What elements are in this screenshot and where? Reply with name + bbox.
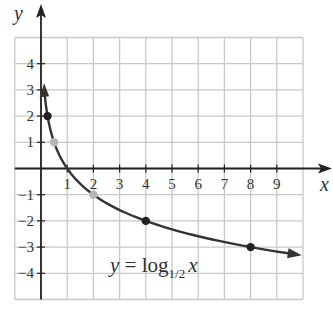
y-tick-label: −4: [18, 265, 34, 281]
x-tick-label: 8: [247, 176, 255, 192]
axes: [15, 4, 332, 300]
data-point: [43, 112, 51, 120]
x-tick-label: 7: [221, 176, 229, 192]
y-tick-label: 2: [27, 108, 35, 124]
y-tick-label: 1: [27, 134, 35, 150]
x-tick-label: 1: [63, 176, 71, 192]
x-tick-label: 4: [142, 176, 150, 192]
x-tick-label: 5: [168, 176, 176, 192]
data-point: [142, 217, 150, 225]
y-tick-label: −1: [18, 187, 34, 203]
y-tick-label: −2: [18, 213, 34, 229]
y-tick-label: −3: [18, 239, 34, 255]
x-tick-label: 9: [273, 176, 281, 192]
x-tick-label: 6: [194, 176, 202, 192]
equation-label: y = log1/2x: [108, 253, 198, 281]
curve-right-arrow-icon: [287, 248, 302, 258]
equation-x: x: [187, 253, 198, 277]
y-tick-label: 3: [27, 82, 35, 98]
data-point: [246, 243, 254, 251]
y-axis-label: y: [12, 2, 23, 25]
x-tick-label: 2: [90, 176, 98, 192]
log-curve: [45, 94, 292, 254]
x-axis-label: x: [319, 173, 329, 195]
log-half-graph: 1234567894321−1−2−3−4 y x y = log1/2x: [0, 0, 333, 323]
x-tick-label: 3: [116, 176, 124, 192]
data-point: [50, 138, 58, 146]
y-tick-label: 4: [27, 56, 35, 72]
equation-base: 1/2: [169, 266, 186, 281]
equation-log: = log: [119, 253, 169, 277]
curve: [40, 83, 302, 258]
data-point: [89, 191, 97, 199]
equation-y: y: [108, 253, 120, 277]
chart-canvas: 1234567894321−1−2−3−4 y x y = log1/2x: [0, 0, 333, 323]
